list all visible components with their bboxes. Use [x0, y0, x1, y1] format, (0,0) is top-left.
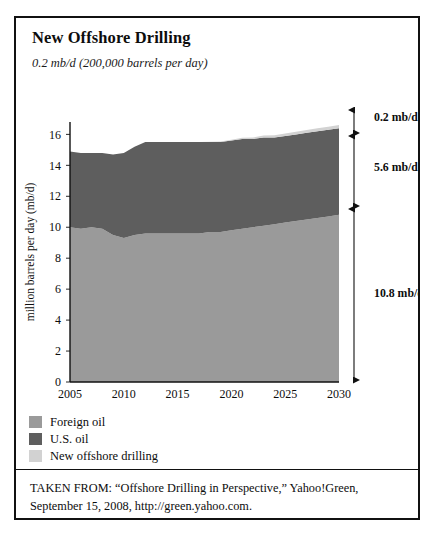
figure-subtitle: 0.2 mb/d (200,000 barrels per day) [32, 56, 208, 71]
x-axis-ticks: 200520102015202020252030 [58, 387, 351, 401]
legend-label-new-offshore-drilling: New offshore drilling [50, 449, 158, 463]
source-citation: TAKEN FROM: “Offshore Drilling in Perspe… [30, 480, 406, 515]
y-axis-label: million barrels per day (mb/d) [24, 183, 37, 322]
y-axis-ticks: 0246810121416 [49, 128, 70, 390]
bracket-label-new-offshore-drilling: 0.2 mb/d [374, 110, 418, 124]
page-title: New Offshore Drilling [32, 28, 191, 48]
stacked-area-chart: 0246810121416 200520102015202020252030 m… [16, 92, 418, 402]
y-tick-label: 2 [55, 344, 61, 358]
legend-label-foreign-oil: Foreign oil [50, 415, 105, 429]
y-tick-label: 10 [49, 220, 61, 234]
y-tick-label: 14 [49, 159, 61, 173]
y-tick-label: 6 [55, 282, 61, 296]
legend-item-foreign-oil: Foreign oil [29, 414, 289, 430]
legend-swatch-foreign-oil [29, 416, 42, 428]
bracket-label-us-oil: 5.6 mb/d [374, 160, 418, 174]
legend-swatch-us-oil [29, 433, 42, 445]
bracket-label-foreign-oil: 10.8 mb/d [374, 286, 418, 300]
legend-label-us-oil: U.S. oil [50, 432, 89, 446]
x-tick-label: 2005 [58, 387, 82, 401]
figure-frame: New Offshore Drilling 0.2 mb/d (200,000 … [14, 16, 420, 520]
x-tick-label: 2015 [166, 387, 190, 401]
chart-legend: Foreign oil U.S. oil New offshore drilli… [29, 414, 289, 465]
x-tick-label: 2030 [327, 387, 351, 401]
chart-canvas: 0246810121416 200520102015202020252030 m… [16, 92, 418, 402]
y-tick-label: 8 [55, 251, 61, 265]
source-line-2: September 15, 2008, http://green.yahoo.c… [30, 498, 406, 516]
y-tick-label: 16 [49, 128, 61, 142]
legend-swatch-new-offshore-drilling [29, 450, 42, 462]
y-tick-label: 4 [55, 313, 61, 327]
source-line-1: TAKEN FROM: “Offshore Drilling in Perspe… [30, 481, 358, 495]
legend-item-us-oil: U.S. oil [29, 431, 289, 447]
y-tick-label: 12 [49, 189, 61, 203]
source-divider [16, 469, 418, 470]
x-tick-label: 2020 [219, 387, 243, 401]
legend-item-new-offshore-drilling: New offshore drilling [29, 448, 289, 464]
x-tick-label: 2010 [112, 387, 136, 401]
area-series-foreign-oil [70, 215, 339, 382]
x-tick-label: 2025 [273, 387, 297, 401]
